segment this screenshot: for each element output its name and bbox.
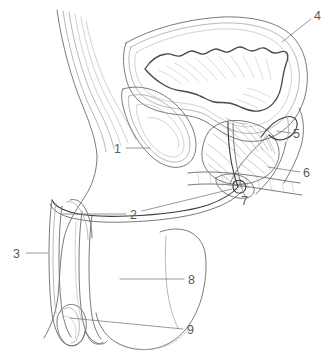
anatomy-figure: 1 2 3 4 5 6 7 8 9 — [0, 0, 330, 359]
abdominal-wall-inner-1 — [63, 11, 106, 152]
scrotum-raphe — [165, 236, 178, 328]
label-number-5: 5 — [293, 127, 300, 141]
label-number-3: 3 — [13, 247, 20, 261]
rectum-anterior-wall — [284, 108, 303, 183]
label-number-8: 8 — [188, 273, 195, 287]
leader-line-6 — [268, 167, 300, 172]
label-number-2: 2 — [130, 208, 137, 222]
seminal-vesicle-outline — [202, 120, 279, 184]
pubis-marrow — [148, 118, 179, 148]
urinary-bladder-group — [123, 17, 307, 142]
scrotum-lower-fold — [110, 330, 188, 350]
pubis-outline — [122, 87, 196, 167]
bladder-interior-texture — [158, 56, 271, 108]
ampulla-ductus-deferens — [261, 116, 297, 139]
abdominal-wall-group — [44, 10, 136, 338]
label-number-6: 6 — [303, 166, 310, 180]
label-number-9: 9 — [187, 323, 194, 337]
label-number-1: 1 — [114, 142, 121, 156]
testis-outline — [57, 304, 86, 345]
bladder-submucosa — [135, 29, 292, 127]
leader-line-4 — [282, 19, 311, 42]
symphysis-pubis-group — [122, 87, 196, 167]
label-number-4: 4 — [314, 9, 321, 23]
pubis-core — [136, 104, 184, 157]
leader-line-9 — [70, 318, 183, 329]
epididymis — [64, 308, 79, 343]
anatomy-diagram-root: 1 2 3 4 5 6 7 8 9 — [0, 0, 330, 359]
corpus-cavernosum-septum — [53, 203, 56, 313]
label-number-7: 7 — [241, 194, 248, 208]
